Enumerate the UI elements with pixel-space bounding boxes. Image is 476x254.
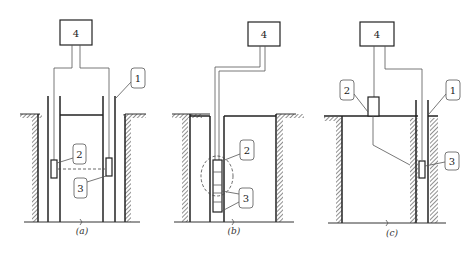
transmitter-a	[51, 160, 57, 178]
caption-a: (a)	[76, 226, 89, 236]
svg-text:1: 1	[135, 73, 141, 84]
caption-c: (c)	[386, 228, 399, 238]
panel-b: 4 2 3 (b)	[172, 22, 304, 236]
cable-left-a	[54, 45, 72, 160]
svg-text:3: 3	[77, 183, 83, 194]
pile-wall-right-c	[410, 118, 418, 223]
svg-text:2: 2	[344, 85, 350, 96]
cable-right-a	[80, 45, 109, 160]
svg-text:4: 4	[374, 29, 380, 40]
signal-path-c	[373, 116, 410, 165]
svg-text:2: 2	[76, 149, 82, 160]
panel-a: 4 1 2 3 (a)	[20, 20, 146, 236]
wall-right-c	[430, 118, 438, 223]
wall-left-a	[32, 116, 38, 222]
panel-c: 4 2 1 3 (c)	[324, 22, 460, 238]
caption-b: (b)	[228, 226, 241, 236]
receiver-c	[419, 161, 425, 178]
wall-right-b	[277, 116, 283, 222]
probe-stack-b	[213, 160, 222, 212]
svg-text:1: 1	[450, 85, 456, 96]
figure: 4 1 2 3 (a)	[0, 0, 476, 254]
svg-text:3: 3	[449, 156, 455, 167]
wall-left-c	[336, 118, 342, 223]
transmitter-c	[368, 97, 379, 116]
receiver-a	[106, 158, 112, 176]
box-label-a: 4	[73, 28, 79, 39]
wall-right-a	[125, 116, 131, 222]
ground-left-c	[324, 117, 338, 121]
svg-text:2: 2	[244, 145, 250, 156]
wall-left-b	[182, 116, 188, 222]
svg-text:4: 4	[261, 29, 267, 40]
svg-text:3: 3	[243, 193, 249, 204]
